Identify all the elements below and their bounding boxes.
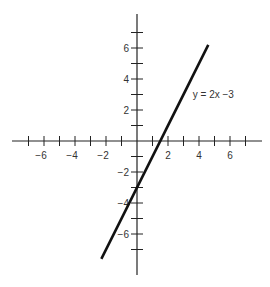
axes xyxy=(12,14,262,275)
x-tick-label: −6 xyxy=(35,150,47,161)
y-tick-label: 6 xyxy=(123,43,129,54)
y-tick-label: 2 xyxy=(123,105,129,116)
x-tick-label: 2 xyxy=(165,150,171,161)
equation-label: y = 2x −3 xyxy=(193,89,235,100)
y-tick-label: −6 xyxy=(118,229,130,240)
plotted-line xyxy=(101,45,208,259)
linear-function-graph: −6−4−2246 642−2−4−6 y = 2x −3 xyxy=(0,0,270,287)
x-axis-tick-labels: −6−4−2246 xyxy=(35,150,233,161)
line-y-equals-2x-minus-3 xyxy=(101,45,208,259)
x-tick-label: 6 xyxy=(227,150,233,161)
y-tick-label: −2 xyxy=(118,167,130,178)
x-tick-label: 4 xyxy=(196,150,202,161)
y-tick-label: 4 xyxy=(123,74,129,85)
equation-annotation: y = 2x −3 xyxy=(193,89,235,100)
x-tick-label: −2 xyxy=(97,150,109,161)
x-tick-label: −4 xyxy=(66,150,78,161)
